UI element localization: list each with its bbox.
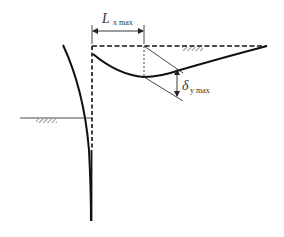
ground-hatch-excavation [36, 119, 57, 123]
dy-max-label: δ [182, 78, 189, 93]
dy-max-subscript: y max [190, 86, 210, 95]
diagram-canvas: L x max δ y max [0, 0, 284, 237]
ground-hatch-top [182, 47, 203, 51]
lx-max-subscript: x max [113, 18, 133, 27]
deflected-wall-curve [63, 45, 91, 221]
settlement-curve [93, 46, 267, 77]
lx-max-label: L [101, 11, 110, 26]
slant-line-upper [144, 46, 183, 73]
